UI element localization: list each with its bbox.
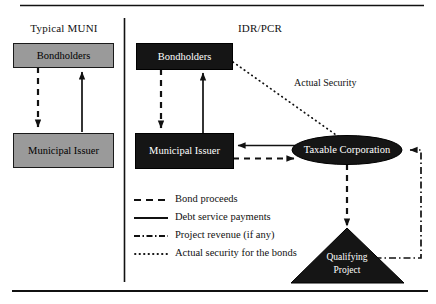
legend-label-project-revenue: Project revenue (if any): [175, 229, 274, 240]
edge-label-actual-security: Actual Security: [294, 77, 356, 88]
legend: Bond proceeds Debt service payments Proj…: [133, 189, 333, 261]
legend-swatch-dashed: [133, 192, 169, 204]
legend-label-actual-security: Actual security for the bonds: [175, 247, 297, 258]
legend-label-bond-proceeds: Bond proceeds: [175, 193, 238, 204]
taxable-corporation-shape: [292, 136, 402, 165]
legend-item-debt-service: Debt service payments: [133, 207, 333, 225]
edge-project-revenue: [360, 150, 421, 258]
node-muni-bondholders: Bondholders: [13, 43, 114, 68]
edge-actual-security: [233, 62, 339, 137]
legend-item-actual-security: Actual security for the bonds: [133, 243, 333, 261]
legend-label-debt-service: Debt service payments: [175, 211, 271, 222]
panel-title-typical-muni: Typical MUNI: [10, 22, 118, 34]
node-idr-bondholders: Bondholders: [136, 43, 233, 70]
legend-swatch-solid: [133, 210, 169, 222]
legend-item-bond-proceeds: Bond proceeds: [133, 189, 333, 207]
legend-swatch-dotted: [133, 246, 169, 258]
panel-title-idr-pcr: IDR/PCR: [200, 22, 320, 34]
node-taxable-corporation: Taxable Corporation: [292, 142, 402, 158]
node-idr-issuer: Municipal Issuer: [135, 133, 234, 169]
diagram-figure: Typical MUNI IDR/PCR Bondholders Municip…: [0, 0, 436, 304]
node-muni-issuer: Municipal Issuer: [13, 133, 114, 168]
node-qualifying-project-line2: Project: [305, 264, 389, 276]
legend-swatch-dashdot: [133, 228, 169, 240]
legend-item-project-revenue: Project revenue (if any): [133, 225, 333, 243]
